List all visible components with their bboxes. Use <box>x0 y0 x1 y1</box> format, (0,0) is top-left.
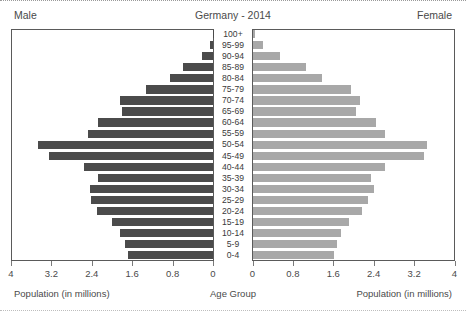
male-bar-slot <box>0 51 213 62</box>
tick-female-1.6 <box>333 261 334 266</box>
bar-male-30-34[interactable] <box>90 185 213 193</box>
male-bar-slot <box>0 239 213 250</box>
female-bar-slot <box>253 217 456 228</box>
bar-male-90-94[interactable] <box>202 52 213 60</box>
bar-female-40-44[interactable] <box>253 163 385 171</box>
female-bar-slot <box>253 95 456 106</box>
age-group-label-50-54: 50-54 <box>214 139 252 150</box>
bar-male-20-24[interactable] <box>97 207 213 215</box>
bar-male-35-39[interactable] <box>98 174 213 182</box>
tick-male-0 <box>213 261 214 266</box>
female-bar-slot <box>253 128 456 139</box>
bar-male-15-19[interactable] <box>112 218 213 226</box>
bar-female-95-99[interactable] <box>253 41 263 49</box>
bar-female-85-89[interactable] <box>253 63 306 71</box>
tick-label-male-4: 4 <box>0 268 31 279</box>
bar-female-25-29[interactable] <box>253 196 368 204</box>
age-group-label-5-9: 5-9 <box>214 239 252 250</box>
bar-female-45-49[interactable] <box>253 152 424 160</box>
tick-label-female-4: 4 <box>435 268 466 279</box>
bar-female-80-84[interactable] <box>253 74 322 82</box>
female-bar-slot <box>253 40 456 51</box>
tick-male-1.6 <box>132 261 133 266</box>
bar-female-0-4[interactable] <box>253 251 334 259</box>
male-bar-slot <box>0 117 213 128</box>
female-bar-slot <box>253 117 456 128</box>
female-bar-slot <box>253 151 456 162</box>
chart-title: Germany - 2014 <box>0 9 466 21</box>
bar-male-5-9[interactable] <box>125 240 213 248</box>
tick-label-male-0.8: 0.8 <box>153 268 193 279</box>
bar-female-55-59[interactable] <box>253 130 385 138</box>
age-group-label-80-84: 80-84 <box>214 73 252 84</box>
bar-male-25-29[interactable] <box>91 196 213 204</box>
male-bar-slot <box>0 139 213 150</box>
male-bar-slot <box>0 184 213 195</box>
age-group-label-40-44: 40-44 <box>214 162 252 173</box>
chart-header: Male Germany - 2014 Female <box>0 9 466 25</box>
female-bar-slot <box>253 51 456 62</box>
male-bar-slot <box>0 162 213 173</box>
female-bar-slot <box>253 84 456 95</box>
bar-male-65-69[interactable] <box>122 107 213 115</box>
bar-male-60-64[interactable] <box>98 118 213 126</box>
age-group-label-30-34: 30-34 <box>214 184 252 195</box>
bar-female-90-94[interactable] <box>253 52 280 60</box>
male-bar-slot <box>0 73 213 84</box>
tick-label-male-2.4: 2.4 <box>72 268 112 279</box>
bar-male-70-74[interactable] <box>120 96 213 104</box>
bar-male-100+[interactable] <box>213 30 214 38</box>
bar-female-70-74[interactable] <box>253 96 360 104</box>
bar-male-75-79[interactable] <box>146 85 213 93</box>
tick-female-0.8 <box>293 261 294 266</box>
tick-label-male-1.6: 1.6 <box>112 268 152 279</box>
age-group-label-15-19: 15-19 <box>214 217 252 228</box>
age-group-label-70-74: 70-74 <box>214 95 252 106</box>
age-group-label-85-89: 85-89 <box>214 62 252 73</box>
male-bar-slot <box>0 84 213 95</box>
male-bar-slot <box>0 217 213 228</box>
tick-label-female-3.2: 3.2 <box>394 268 434 279</box>
tick-female-2.4 <box>374 261 375 266</box>
bar-male-45-49[interactable] <box>49 152 213 160</box>
bar-female-10-14[interactable] <box>253 229 341 237</box>
bar-male-95-99[interactable] <box>210 41 213 49</box>
male-bar-slot <box>0 206 213 217</box>
male-bar-slot <box>0 40 213 51</box>
bar-male-50-54[interactable] <box>38 141 213 149</box>
female-bar-slot <box>253 106 456 117</box>
female-bar-slot <box>253 206 456 217</box>
tick-female-0 <box>253 261 254 266</box>
bar-female-60-64[interactable] <box>253 118 376 126</box>
male-bar-slot <box>0 106 213 117</box>
female-bar-slot <box>253 250 456 261</box>
bar-female-35-39[interactable] <box>253 174 371 182</box>
tick-label-female-2.4: 2.4 <box>354 268 394 279</box>
tick-label-female-1.6: 1.6 <box>313 268 353 279</box>
bar-female-75-79[interactable] <box>253 85 351 93</box>
bar-male-0-4[interactable] <box>128 251 213 259</box>
tick-male-0.8 <box>173 261 174 266</box>
age-group-label-60-64: 60-64 <box>214 117 252 128</box>
bar-female-50-54[interactable] <box>253 141 427 149</box>
tick-male-2.4 <box>92 261 93 266</box>
bar-female-20-24[interactable] <box>253 207 362 215</box>
bar-male-55-59[interactable] <box>88 130 213 138</box>
female-bar-slot <box>253 173 456 184</box>
chart-frame: Male Germany - 2014 Female 100+95-9990-9… <box>0 0 466 311</box>
bar-female-15-19[interactable] <box>253 218 349 226</box>
bar-male-85-89[interactable] <box>183 63 213 71</box>
bar-female-30-34[interactable] <box>253 185 374 193</box>
bar-female-65-69[interactable] <box>253 107 356 115</box>
age-group-label-65-69: 65-69 <box>214 106 252 117</box>
bar-female-5-9[interactable] <box>253 240 337 248</box>
bar-male-40-44[interactable] <box>84 163 213 171</box>
female-bar-slot <box>253 195 456 206</box>
age-group-label-90-94: 90-94 <box>214 51 252 62</box>
bar-female-100+[interactable] <box>253 30 255 38</box>
bar-male-10-14[interactable] <box>120 229 213 237</box>
age-group-axis: 100+95-9990-9485-8980-8475-7970-7465-696… <box>214 29 252 261</box>
bar-male-80-84[interactable] <box>170 74 213 82</box>
female-bar-slot <box>253 29 456 40</box>
x-axis-label-female: Population (in millions) <box>356 288 452 299</box>
